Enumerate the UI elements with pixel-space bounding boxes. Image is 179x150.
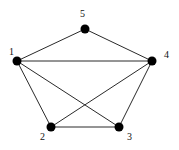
node-1: [13, 57, 22, 66]
node-label-4: 4: [164, 49, 169, 60]
node-5: [81, 25, 90, 34]
node-label-3: 3: [127, 131, 132, 142]
edge-1-2: [17, 61, 51, 127]
node-4: [148, 57, 157, 66]
edge-5-4: [85, 29, 152, 61]
graph-svg: 12345: [0, 0, 179, 150]
graph-diagram: 12345: [0, 0, 179, 150]
node-label-5: 5: [80, 8, 85, 19]
edge-4-2: [51, 61, 152, 127]
edges-group: [17, 29, 152, 127]
node-label-2: 2: [40, 131, 45, 142]
edge-4-3: [119, 61, 152, 127]
nodes-group: [13, 25, 157, 132]
node-label-1: 1: [9, 46, 14, 57]
edge-1-5: [17, 29, 85, 61]
node-3: [115, 123, 124, 132]
edge-1-3: [17, 61, 119, 127]
node-2: [47, 123, 56, 132]
